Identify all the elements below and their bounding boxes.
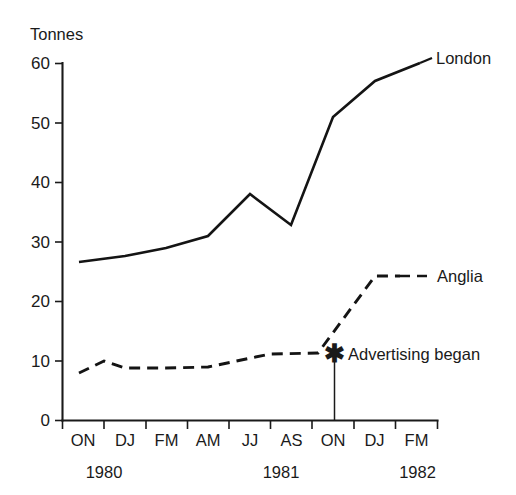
y-tick-label: 20 [31,292,50,311]
x-tick-label: AS [280,431,302,449]
y-tick-label: 30 [31,233,50,252]
year-label: 1982 [399,463,436,481]
series-line-london [79,63,420,262]
x-axis-ticks [63,421,438,430]
y-tick-label: 50 [31,114,50,133]
x-tick-label: ON [71,431,96,449]
y-tick-label: 0 [41,411,50,430]
advertising-annotation-label: Advertising began [348,345,480,363]
y-tick-label: 60 [31,54,50,73]
x-tick-label: FM [155,431,179,449]
y-tick-label: 40 [31,173,50,192]
y-axis-tick-labels: 60 50 40 30 20 10 0 [31,54,50,430]
london-leader-line [420,58,432,63]
y-tick-label: 10 [31,352,50,371]
year-label: 1981 [263,463,300,481]
series-label-london: London [436,49,491,67]
chart-canvas: 60 50 40 30 20 10 0 Tonnes ON DJ F [0,0,516,495]
x-tick-label: JJ [242,431,259,449]
year-label: 1980 [86,463,123,481]
x-tick-label: DJ [115,431,135,449]
x-tick-label: ON [321,431,346,449]
y-axis-ticks [55,64,63,421]
line-chart: 60 50 40 30 20 10 0 Tonnes ON DJ F [0,0,516,495]
x-tick-label: FM [405,431,429,449]
x-tick-label: AM [196,431,221,449]
x-axis-year-labels: 1980 1981 1982 [86,463,436,481]
x-tick-label: DJ [364,431,384,449]
asterisk-icon: ✱ [324,339,345,367]
series-label-anglia: Anglia [437,267,484,285]
x-axis-tick-labels: ON DJ FM AM JJ AS ON DJ FM [71,431,429,449]
y-axis-title: Tonnes [30,25,83,43]
